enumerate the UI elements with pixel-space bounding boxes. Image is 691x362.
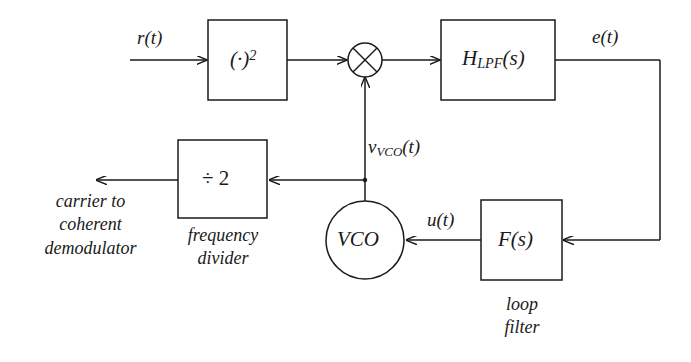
junction-dot-vco-tap	[363, 178, 367, 182]
block-label-squarer: (·)2	[230, 47, 256, 72]
signal-label-input: r(t)	[137, 27, 162, 49]
block-label-lpf: HLPF(s)	[462, 46, 525, 72]
signal-label-control: u(t)	[427, 209, 454, 231]
node-label-vco: VCO	[337, 227, 379, 252]
caption-carrier-output: carrier to coherent demodulator	[8, 190, 173, 260]
signal-label-error: e(t)	[592, 26, 618, 48]
signal-label-vco-output: vVCO(t)	[368, 136, 420, 159]
block-diagram-canvas: (·)2 HLPF(s) ÷ 2 F(s) VCO r(t) e(t) vVCO…	[0, 0, 691, 362]
block-label-frequency-divider: ÷ 2	[202, 166, 229, 191]
caption-frequency-divider: frequency divider	[168, 224, 278, 271]
block-label-loop-filter: F(s)	[498, 227, 533, 252]
diagram-svg	[0, 0, 691, 362]
caption-loop-filter: loop filter	[480, 293, 564, 340]
